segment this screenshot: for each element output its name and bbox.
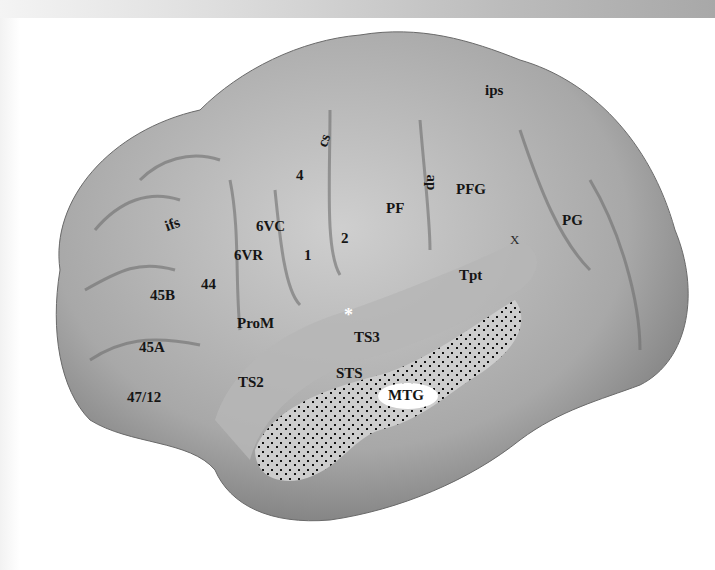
- label-area-6vc: 6VC: [256, 219, 285, 234]
- label-tpt: Tpt: [459, 268, 482, 283]
- label-x: X: [510, 233, 519, 246]
- label-area-2: 2: [341, 231, 349, 246]
- label-ts2: TS2: [238, 375, 264, 390]
- label-area-44: 44: [201, 277, 216, 292]
- label-area-45a: 45A: [139, 340, 165, 355]
- label-mtg: MTG: [388, 388, 424, 403]
- label-sts: STS: [336, 366, 363, 381]
- label-area-6vr: 6VR: [234, 248, 263, 263]
- label-ips: ips: [485, 83, 503, 98]
- label-pfg: PFG: [456, 182, 486, 197]
- asterisk-marker: *: [344, 305, 353, 326]
- brain-surface: [0, 0, 715, 570]
- brain-outline: [56, 32, 688, 521]
- label-ts3: TS3: [354, 330, 380, 345]
- label-pg: PG: [562, 213, 583, 228]
- label-ap: ap: [424, 175, 439, 191]
- label-pf: PF: [386, 201, 404, 216]
- label-area-45b: 45B: [150, 288, 175, 303]
- label-area-47-12: 47/12: [127, 390, 161, 405]
- label-area-1: 1: [304, 248, 312, 263]
- label-area-4: 4: [296, 168, 304, 183]
- label-prom: ProM: [237, 316, 274, 331]
